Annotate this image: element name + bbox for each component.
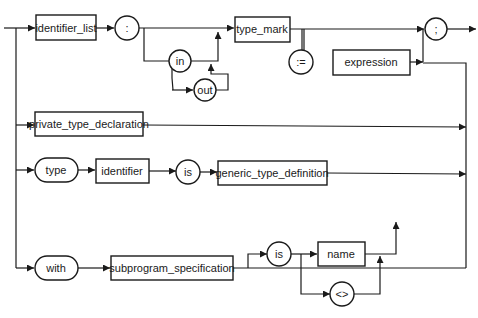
node-label: private_type_declaration bbox=[29, 118, 149, 130]
node-label: := bbox=[296, 56, 305, 68]
node-with-keyword: with bbox=[35, 256, 78, 280]
node-identifier-list: identifier_list bbox=[35, 15, 96, 40]
node-label: name bbox=[327, 248, 355, 260]
node-name: name bbox=[318, 242, 365, 266]
node-label: identifier bbox=[101, 165, 143, 177]
node-expression: expression bbox=[333, 50, 410, 75]
node-label: type bbox=[46, 164, 67, 176]
node-generic-type-definition: generic_type_definition bbox=[215, 161, 328, 185]
node-label: subprogram_specification bbox=[109, 262, 234, 274]
node-type-keyword: type bbox=[35, 158, 78, 182]
syntax-diagram: identifier_list : in out type_mark := ex… bbox=[0, 0, 478, 318]
node-box: <> bbox=[330, 282, 354, 306]
node-label: is bbox=[275, 248, 283, 260]
node-label: <> bbox=[336, 288, 349, 300]
node-subprogram-specification: subprogram_specification bbox=[109, 256, 234, 280]
node-label: identifier_list bbox=[35, 22, 96, 34]
node-label: generic_type_definition bbox=[215, 167, 328, 179]
node-out: out bbox=[194, 79, 216, 101]
node-is-keyword-2: is bbox=[267, 242, 291, 266]
node-label: is bbox=[184, 166, 192, 178]
node-label: type_mark bbox=[236, 23, 288, 35]
node-label: out bbox=[197, 84, 212, 96]
node-label: : bbox=[125, 22, 128, 34]
node-semicolon: ; bbox=[425, 18, 447, 40]
node-label: in bbox=[176, 55, 185, 67]
node-private-type-declaration: private_type_declaration bbox=[29, 112, 149, 136]
node-identifier: identifier bbox=[96, 159, 149, 183]
node-colon: : bbox=[115, 16, 139, 40]
node-label: expression bbox=[344, 56, 397, 68]
node-label: ; bbox=[434, 23, 437, 35]
node-in: in bbox=[169, 50, 191, 72]
node-label: with bbox=[45, 262, 66, 274]
node-is-keyword: is bbox=[176, 160, 200, 184]
node-type-mark: type_mark bbox=[235, 17, 290, 42]
node-assign: := bbox=[289, 50, 313, 74]
